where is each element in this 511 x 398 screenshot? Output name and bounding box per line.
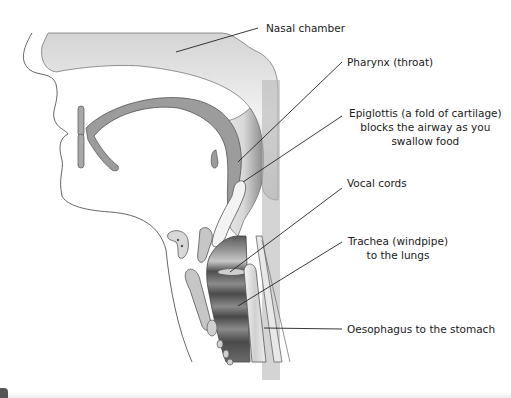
label-nasal-chamber: Nasal chamber <box>266 21 345 35</box>
lower-incisor <box>78 134 84 168</box>
label-epiglottis: Epiglottis (a fold of cartilage) blocks … <box>349 106 502 148</box>
tongue-arch <box>86 98 241 208</box>
hyoid-bone <box>168 231 189 259</box>
label-oesophagus: Oesophagus to the stomach <box>347 322 495 336</box>
tracheal-ring <box>207 320 217 336</box>
label-line: swallow food <box>349 134 502 148</box>
uvula <box>211 150 218 168</box>
trachea-tube <box>207 236 250 362</box>
label-line: Pharynx (throat) <box>347 55 433 69</box>
label-line: to the lungs <box>348 248 448 262</box>
upper-incisor <box>78 106 84 136</box>
throat-anatomy-diagram <box>0 0 511 398</box>
tracheal-ring <box>227 359 233 365</box>
vocal-cords <box>218 269 246 275</box>
label-vocal-cords: Vocal cords <box>347 176 407 190</box>
label-trachea: Trachea (windpipe) to the lungs <box>348 234 448 262</box>
tracheal-ring <box>223 350 229 358</box>
label-line: Vocal cords <box>347 176 407 190</box>
label-line: blocks the airway as you <box>349 120 502 134</box>
face-profile-outline <box>23 33 192 362</box>
label-pharynx: Pharynx (throat) <box>347 55 433 69</box>
page-edge <box>0 392 511 398</box>
tracheal-ring <box>217 340 223 348</box>
hyoid-texture <box>181 245 183 247</box>
hyoid-texture <box>177 239 179 241</box>
label-line: Trachea (windpipe) <box>348 234 448 248</box>
label-line: Oesophagus to the stomach <box>347 322 495 336</box>
page-corner <box>0 388 8 398</box>
label-line: Epiglottis (a fold of cartilage) <box>349 106 502 120</box>
label-line: Nasal chamber <box>266 21 345 35</box>
